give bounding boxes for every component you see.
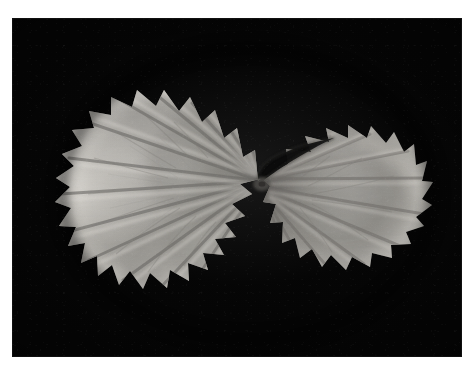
leaf-photograph xyxy=(12,18,462,357)
photo-caption: Black and white photograph of a single r… xyxy=(0,0,1,1)
leaf-shading xyxy=(12,18,462,357)
page-root: Black and white photograph of a single r… xyxy=(0,0,472,384)
leaf-illustration xyxy=(12,18,462,357)
leaf-centre xyxy=(253,177,271,191)
photo-inner xyxy=(12,18,462,357)
